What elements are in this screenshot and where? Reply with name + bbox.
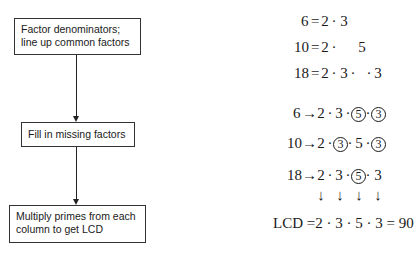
step-1-line-1: Factor denominators; — [21, 23, 134, 36]
down-arrow-icon: ↓ — [371, 187, 385, 204]
arrow-1-line — [76, 55, 77, 116]
filled-18-c4: 3 — [371, 167, 385, 184]
filled-18-num: 18 — [287, 167, 302, 184]
step-1-box: Factor denominators; line up common fact… — [14, 18, 141, 55]
arrow-2-line — [76, 147, 77, 199]
filled-10-num: 10 — [287, 135, 302, 152]
step-3-line-2: column to get LCD — [16, 223, 139, 236]
filled-6-num: 6 — [293, 105, 301, 122]
fact-6-c2: 3 — [337, 13, 351, 30]
step-3-box: Multiply primes from each column to get … — [9, 205, 146, 243]
filled-6-c4-circled: 3 — [371, 107, 386, 122]
lcd-eq: = — [307, 215, 315, 231]
lcd-expr: 2 · 3 · 5 · 3 — [315, 215, 383, 231]
filled-10-c4-circled: 3 — [371, 137, 386, 152]
fact-10-c3: 5 — [355, 39, 369, 56]
lcd-eq2: = — [386, 215, 394, 231]
step-2-box: Fill in missing factors — [21, 122, 135, 147]
step-3-line-1: Multiply primes from each — [16, 210, 139, 223]
fact-18-c4: 3 — [371, 65, 385, 82]
step-2-line-1: Fill in missing factors — [28, 128, 128, 141]
dot: · — [346, 65, 360, 82]
fact-10-num: 10 — [294, 39, 309, 56]
fact-18-num: 18 — [294, 65, 309, 82]
lcd-label: LCD — [273, 215, 303, 231]
down-arrow-icon: ↓ — [314, 187, 328, 204]
lcd-result: LCD =2 · 3 · 5 · 3 = 90 — [273, 215, 414, 232]
step-1-line-2: line up common factors — [21, 36, 134, 49]
down-arrow-icon: ↓ — [352, 187, 366, 204]
down-arrow-icon: ↓ — [333, 187, 347, 204]
lcd-value: 90 — [399, 215, 414, 231]
fact-6-num: 6 — [301, 13, 309, 30]
dot: · — [327, 39, 341, 56]
